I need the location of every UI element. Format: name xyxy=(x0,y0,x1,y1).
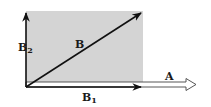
label-b1: B1 xyxy=(82,92,97,104)
label-a: A xyxy=(165,71,174,82)
label-b2: B2 xyxy=(18,42,33,54)
vector-diagram: B2 B B1 A xyxy=(0,0,211,107)
label-b: B xyxy=(75,39,84,50)
